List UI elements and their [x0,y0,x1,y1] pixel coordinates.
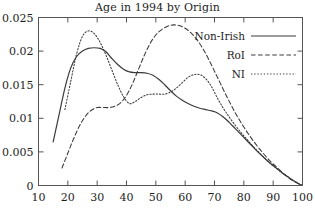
x-tick-label: 50 [149,191,163,204]
x-tick-label: 20 [61,191,75,204]
y-tick-label: 0.025 [2,12,34,25]
line-chart-plot: 00.0050.010.0150.020.025 102030405060708… [0,0,315,212]
y-tick-label: 0.02 [9,45,34,58]
series-line-non-irish [53,48,302,186]
x-axis-ticks: 102030405060708090100 [32,18,314,204]
y-tick-label: 0.01 [9,112,34,125]
x-tick-label: 70 [208,191,222,204]
x-tick-label: 10 [32,191,46,204]
data-curves [53,25,302,186]
chart-legend: Non-IrishRoINI [195,30,297,80]
x-tick-label: 80 [237,191,251,204]
legend-label-roi: RoI [227,49,245,61]
legend-label-ni: NI [232,68,245,80]
legend-label-non-irish: Non-Irish [195,30,246,42]
y-tick-label: 0.015 [2,79,34,92]
series-line-ni [65,31,303,186]
x-tick-label: 40 [120,191,134,204]
chart-figure: Age in 1994 by Origin 00.0050.010.0150.0… [0,0,315,212]
x-tick-label: 100 [292,191,313,204]
x-tick-label: 30 [90,191,104,204]
series-line-roi [62,25,303,186]
y-tick-label: 0.005 [2,146,34,159]
y-axis-ticks: 00.0050.010.0150.020.025 [2,12,303,193]
plot-frame [39,18,303,186]
x-tick-label: 60 [178,191,192,204]
x-tick-label: 90 [266,191,280,204]
